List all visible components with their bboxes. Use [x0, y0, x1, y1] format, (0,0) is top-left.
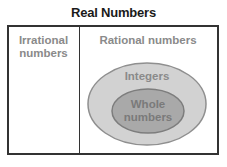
- whole-line2: numbers: [112, 111, 184, 124]
- whole-numbers-label: Whole numbers: [112, 98, 184, 124]
- whole-line1: Whole: [112, 98, 184, 111]
- integers-label: Integers: [88, 70, 206, 83]
- venn-ellipses: [0, 0, 227, 167]
